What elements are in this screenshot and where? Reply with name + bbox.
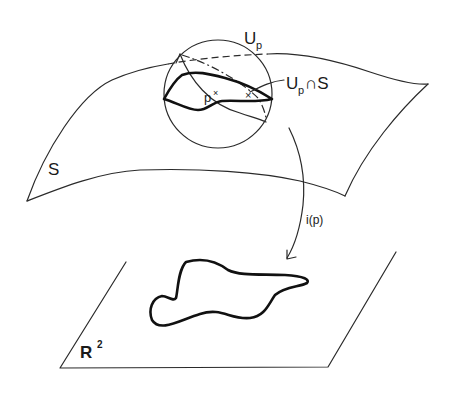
surface-label: S xyxy=(48,160,59,179)
label-up: U p xyxy=(244,29,262,51)
ball-up: p × × xyxy=(164,40,272,148)
surface-right-edge xyxy=(345,84,428,196)
plane-label-main: R xyxy=(80,343,92,362)
surface-top-left-edge xyxy=(27,64,168,201)
up-label-main: U xyxy=(244,29,256,48)
intersection-point-mark: × xyxy=(245,89,251,101)
intersection-label-u: U xyxy=(286,74,298,93)
intersection-label-sub: p xyxy=(298,84,304,96)
map-arrow: i(p) xyxy=(287,128,323,259)
map-label: i(p) xyxy=(306,213,323,227)
manifold-diagram: p × × U p U p ∩S S i(p) R 2 xyxy=(0,0,452,394)
image-curve xyxy=(150,260,307,326)
up-label-sub: p xyxy=(256,39,262,51)
plane-label-sup: 2 xyxy=(97,339,103,350)
point-p-label: p xyxy=(204,90,211,105)
intersection-label-rest: ∩S xyxy=(305,74,329,93)
map-arrow-curve xyxy=(287,128,304,258)
surface-bottom-edge xyxy=(27,169,345,201)
point-p-mark: × xyxy=(213,88,218,98)
